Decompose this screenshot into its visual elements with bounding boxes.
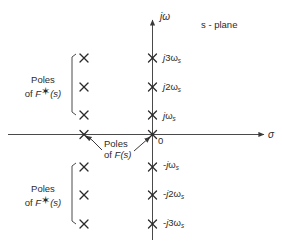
asterisk-icon: ✶ (41, 85, 50, 97)
tick-omega: ω (170, 81, 177, 92)
tick-subscript: s (178, 57, 181, 64)
tick-subscript: s (178, 86, 181, 93)
annotation-line2: of F(s) (104, 149, 160, 160)
tick-omega: ω (165, 110, 172, 121)
tick-subscript: s (173, 115, 176, 122)
annotation-arg: (s) (120, 149, 131, 160)
annotation-line2: of F✶(s) (14, 85, 72, 99)
annotation-poles-of-f-star-upper: Poles of F✶(s) (14, 74, 72, 99)
annotation-of: of (25, 88, 36, 99)
tick-label-j2ws: j2ωs (163, 81, 181, 93)
annotation-line1: Poles (14, 74, 72, 85)
annotation-of: of (104, 149, 115, 160)
bracket-upper-left (72, 54, 76, 115)
tick-omega: ω (170, 52, 177, 63)
tick-omega: ω (174, 188, 181, 199)
diagram-vector-layer (0, 0, 282, 249)
s-plane-label: s - plane (201, 20, 237, 30)
tick-omega: ω (174, 217, 181, 228)
pole-marker (80, 111, 88, 119)
annotation-line2: of F✶(s) (14, 194, 72, 208)
annotation-line1: Poles (14, 183, 72, 194)
tick-omega: ω (168, 159, 175, 170)
annotation-arg: (s) (50, 197, 61, 208)
imaginary-axis-label: jω (160, 12, 170, 23)
pole-marker (80, 83, 88, 91)
pole-marker (80, 163, 88, 171)
annotation-poles-of-f-star-lower: Poles of F✶(s) (14, 183, 72, 208)
asterisk-icon: ✶ (41, 194, 50, 206)
tick-label-minus-j3ws: -j3ωs (163, 217, 184, 229)
tick-label-minus-jws: -jωs (163, 159, 179, 171)
real-axis-label: σ (268, 130, 274, 141)
pole-marker-group-left (80, 54, 88, 228)
tick-subscript: s (176, 164, 179, 171)
tick-subscript: s (181, 193, 184, 200)
bracket-lower-left (72, 163, 76, 224)
tick-label-minus-j2ws: -j2ωs (163, 188, 184, 200)
pole-marker (80, 220, 88, 228)
tick-label-jws: jωs (163, 110, 176, 122)
annotation-of: of (25, 197, 36, 208)
figure-canvas: jω σ s - plane 0 j3ωs j2ωs jωs -jωs -j2ω… (0, 0, 282, 249)
annotation-line1: Poles (104, 138, 160, 149)
tick-label-j3ws: j3ωs (163, 52, 181, 64)
annotation-arg: (s) (50, 88, 61, 99)
pole-marker (80, 54, 88, 62)
tick-subscript: s (181, 222, 184, 229)
pole-marker (80, 191, 88, 199)
annotation-poles-of-f: Poles of F(s) (104, 138, 160, 160)
